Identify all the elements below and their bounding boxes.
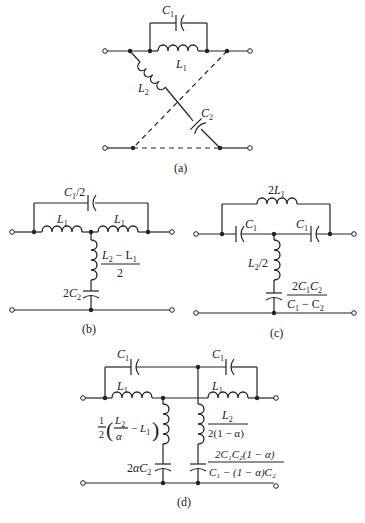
label-2c2: 2C2 (63, 286, 81, 302)
label-shunt2-l-den: 2(1 − α) (208, 427, 244, 440)
panel-c: 2L1 C1 C1 L2/2 2C1C2 C1 − C2 (c) (194, 183, 357, 340)
svg-text:L2: L2 (114, 414, 125, 429)
caption-c: (c) (270, 326, 283, 340)
label-shunt-l-den: 2 (117, 266, 123, 280)
svg-text:α: α (116, 430, 122, 442)
label-2alpha-c2: 2αC2 (127, 461, 151, 477)
label-shunt-c-den: C1 − C2 (287, 297, 324, 313)
caption-a: (a) (174, 161, 187, 175)
label-shunt-l-num: L2 − L1 (101, 248, 137, 264)
label-l1-left: L1 (56, 212, 68, 228)
label-c2: C2 (201, 106, 213, 122)
svg-text:2: 2 (99, 429, 104, 440)
label-shunt1-l: 1 2 ( L2 α − L1 ) (98, 414, 159, 442)
label-l1-right: L1 (113, 212, 125, 228)
label-l1-left: L1 (116, 379, 128, 395)
label-2l1: 2L1 (268, 183, 285, 199)
svg-text:1: 1 (99, 415, 104, 426)
circuit-figure: C1 L1 L2 C2 (a) (0, 0, 365, 523)
svg-text:): ) (152, 417, 159, 442)
label-shunt2-l-num: L2 (221, 408, 233, 424)
label-c1-left: C1 (117, 347, 129, 363)
label-c1-right: C1 (296, 217, 308, 233)
label-l2: L2 (137, 81, 149, 97)
panel-d: C1 C1 L1 L1 1 2 ( L2 α − L1 ) 2αC2 L2 2(… (81, 347, 284, 509)
svg-text:(: ( (106, 417, 113, 442)
label-l1: L1 (175, 57, 187, 73)
caption-d: (d) (177, 495, 191, 509)
panel-a: C1 L1 L2 C2 (a) (103, 3, 253, 175)
label-c1: C1 (162, 3, 174, 19)
label-l2-half: L2/2 (247, 256, 268, 272)
panel-b: C1/2 L1 L1 L2 − L1 2 2C2 (b) (10, 185, 175, 336)
label-c1-half: C1/2 (64, 185, 85, 201)
label-c1-right: C1 (212, 347, 224, 363)
caption-b: (b) (82, 322, 96, 336)
svg-text:L1: L1 (139, 422, 150, 437)
label-shunt-c-num: 2C1C2 (292, 279, 322, 295)
label-l1-right: L1 (211, 379, 223, 395)
label-c1-left: C1 (245, 217, 257, 233)
label-shunt2-c-num: 2C₁C₂(1 − α) (215, 448, 275, 461)
label-shunt2-c-den: C₁ − (1 − α)C₂ (209, 466, 276, 479)
svg-text:−: − (131, 422, 137, 434)
